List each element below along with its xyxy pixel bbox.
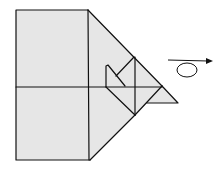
- paper-body: [16, 10, 178, 160]
- origami-diagram: [0, 0, 223, 171]
- turn-over-arrow-icon: [168, 58, 213, 77]
